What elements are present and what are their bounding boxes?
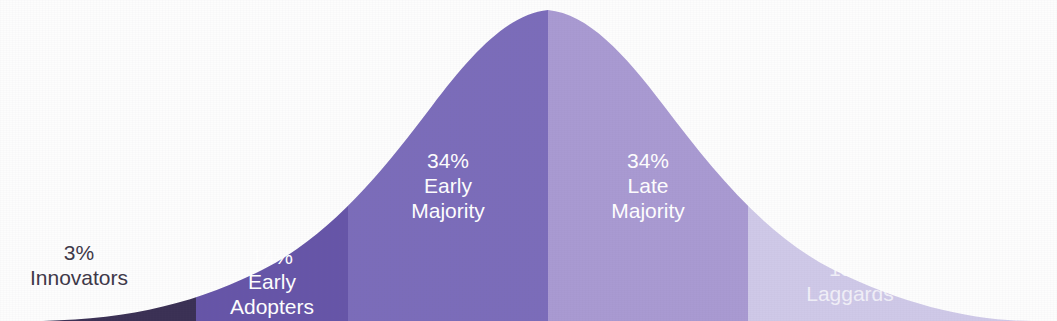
laggards-percent: 15% (760, 256, 940, 281)
early-adopters-percent: 14% (197, 244, 347, 269)
segment-label-laggards: 15% Laggards (760, 256, 940, 306)
late-majority-percent: 34% (548, 148, 748, 173)
early-adopters-name-line1: Early (197, 269, 347, 294)
segment-label-innovators: 3% Innovators (4, 240, 154, 290)
early-majority-percent: 34% (348, 148, 548, 173)
technology-adoption-lifecycle-curve: 3% Innovators 14% Early Adopters 34% Ear… (0, 0, 1057, 321)
late-majority-name-line1: Late (548, 173, 748, 198)
segment-label-early-adopters: 14% Early Adopters (197, 244, 347, 320)
innovators-percent: 3% (4, 240, 154, 265)
late-majority-name-line2: Majority (548, 198, 748, 223)
early-majority-name-line1: Early (348, 173, 548, 198)
laggards-name: Laggards (760, 281, 940, 306)
segment-label-early-majority: 34% Early Majority (348, 148, 548, 224)
innovators-name: Innovators (4, 265, 154, 290)
early-adopters-name-line2: Adopters (197, 294, 347, 319)
early-majority-name-line2: Majority (348, 198, 548, 223)
segment-label-late-majority: 34% Late Majority (548, 148, 748, 224)
